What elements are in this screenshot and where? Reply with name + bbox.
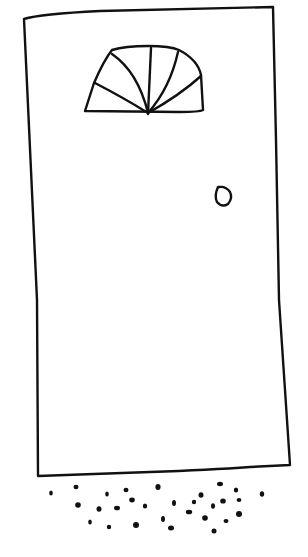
- door-frame: [24, 7, 290, 476]
- doorknob: [216, 187, 231, 206]
- gravel: [49, 482, 264, 534]
- door-drawing: [0, 0, 308, 557]
- fanlight-window: [85, 46, 203, 114]
